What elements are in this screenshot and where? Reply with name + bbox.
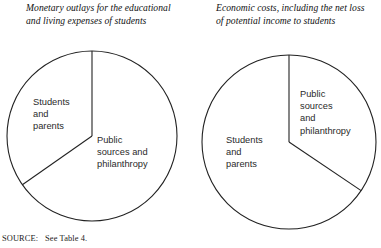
- left-pie-chart: [7, 51, 177, 221]
- source-note-label: SOURCE:: [2, 234, 38, 243]
- left-slice-label-students-and-parents: Students and parents: [33, 96, 70, 133]
- source-note: SOURCE:See Table 4.: [2, 234, 87, 243]
- right-chart-title: Economic costs, including the net loss o…: [216, 2, 368, 27]
- right-slice-label-public-sources: Public sources and philanthropy: [300, 88, 351, 137]
- left-slice-label-public-sources: Public sources and philanthropy: [97, 134, 148, 171]
- source-note-text: See Table 4.: [45, 234, 87, 243]
- figure-container: Monetary outlays for the educational and…: [0, 0, 381, 248]
- left-chart-title: Monetary outlays for the educational and…: [26, 2, 176, 27]
- right-slice-label-students-and-parents: Students and parents: [226, 134, 263, 171]
